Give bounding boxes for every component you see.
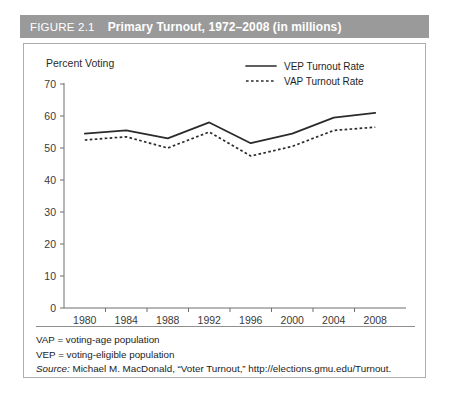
y-tick-label: 50 bbox=[44, 142, 56, 154]
source-label: Source: bbox=[36, 363, 70, 374]
x-axis-ticks: 19801984198819921996200020042008 bbox=[73, 308, 387, 324]
x-tick-label: 1996 bbox=[239, 314, 263, 324]
figure-root: FIGURE 2.1 Primary Turnout, 1972–2008 (i… bbox=[0, 0, 449, 401]
figure-panel: Percent Voting 010203040506070 198019841… bbox=[23, 43, 426, 378]
x-tick-label: 1984 bbox=[115, 314, 139, 324]
series-line-vep bbox=[85, 113, 376, 143]
y-tick-label: 30 bbox=[44, 206, 56, 218]
source-text: Michael M. MacDonald, “Voter Turnout,” h… bbox=[70, 363, 391, 374]
legend-label: VEP Turnout Rate bbox=[284, 61, 365, 72]
y-tick-label: 10 bbox=[44, 270, 56, 282]
figure-number-label: FIGURE 2.1 bbox=[30, 21, 95, 33]
footnote-vap: VAP = voting-age population bbox=[36, 333, 417, 348]
footnote-vep: VEP = voting-eligible population bbox=[36, 348, 417, 363]
y-tick-label: 40 bbox=[44, 174, 56, 186]
x-tick-label: 2000 bbox=[281, 314, 305, 324]
x-tick-label: 1988 bbox=[156, 314, 180, 324]
figure-header-bar: FIGURE 2.1 Primary Turnout, 1972–2008 (i… bbox=[20, 15, 429, 38]
footnote-divider bbox=[36, 326, 415, 327]
footnote-block: VAP = voting-age population VEP = voting… bbox=[36, 333, 417, 377]
x-tick-label: 1992 bbox=[198, 314, 222, 324]
y-tick-label: 60 bbox=[44, 110, 56, 122]
chart-plot-area: Percent Voting 010203040506070 198019841… bbox=[24, 44, 427, 324]
y-axis-ticks: 010203040506070 bbox=[44, 78, 64, 314]
chart-legend: VEP Turnout RateVAP Turnout Rate bbox=[246, 61, 365, 87]
x-tick-label: 1980 bbox=[73, 314, 97, 324]
y-tick-label: 0 bbox=[50, 302, 56, 314]
y-tick-label: 70 bbox=[44, 78, 56, 90]
y-tick-label: 20 bbox=[44, 238, 56, 250]
y-axis-caption: Percent Voting bbox=[46, 57, 114, 69]
footnote-source: Source: Michael M. MacDonald, “Voter Tur… bbox=[36, 362, 417, 377]
x-tick-label: 2008 bbox=[364, 314, 388, 324]
legend-label: VAP Turnout Rate bbox=[284, 76, 364, 87]
line-chart-svg: Percent Voting 010203040506070 198019841… bbox=[24, 44, 427, 324]
x-tick-label: 2004 bbox=[322, 314, 346, 324]
chart-axes bbox=[64, 83, 406, 308]
figure-title: Primary Turnout, 1972–2008 (in millions) bbox=[108, 20, 342, 34]
